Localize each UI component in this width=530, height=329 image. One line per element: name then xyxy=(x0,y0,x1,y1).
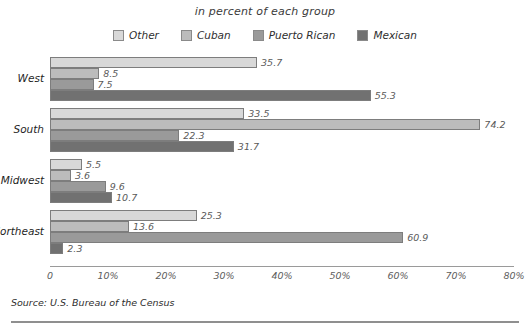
bar[interactable] xyxy=(50,181,106,192)
legend-swatch-icon xyxy=(253,30,264,41)
bar-row: 74.2 xyxy=(50,119,530,130)
bar-row: 60.9 xyxy=(50,232,530,243)
x-axis-line xyxy=(50,266,514,267)
bar-value-label: 9.6 xyxy=(110,181,125,192)
bar[interactable] xyxy=(50,79,94,90)
category-label: South xyxy=(0,123,44,135)
bar[interactable] xyxy=(50,210,197,221)
bar[interactable] xyxy=(50,68,99,79)
bar-row: 2.3 xyxy=(50,243,530,254)
bar-value-label: 25.3 xyxy=(201,210,222,221)
bar-value-label: 10.7 xyxy=(116,192,137,203)
bar-value-label: 33.5 xyxy=(248,108,269,119)
bar[interactable] xyxy=(50,130,179,141)
plot-area: West35.78.57.555.3South33.574.222.331.7M… xyxy=(0,54,530,266)
category-label: West xyxy=(0,72,44,84)
x-tick-label: 80% xyxy=(503,270,524,281)
legend-label: Puerto Rican xyxy=(269,29,336,41)
legend-swatch-icon xyxy=(357,30,368,41)
bar-value-label: 7.5 xyxy=(98,79,113,90)
chart-title: in percent of each group xyxy=(0,5,530,18)
x-tick-label: 60% xyxy=(387,270,408,281)
bar-row: 5.5 xyxy=(50,159,530,170)
bar-row: 33.5 xyxy=(50,108,530,119)
bar-row: 31.7 xyxy=(50,141,530,152)
bar-value-label: 2.3 xyxy=(67,243,82,254)
chart-legend: OtherCubanPuerto RicanMexican xyxy=(0,29,530,41)
bar[interactable] xyxy=(50,243,63,254)
bar-value-label: 13.6 xyxy=(133,221,154,232)
legend-item: Mexican xyxy=(357,29,417,41)
bar-value-label: 22.3 xyxy=(183,130,204,141)
bar-group: Northeast25.313.660.92.3 xyxy=(0,210,530,254)
bar-value-label: 3.6 xyxy=(75,170,90,181)
bar-value-label: 60.9 xyxy=(407,232,428,243)
bar[interactable] xyxy=(50,90,371,101)
x-tick-label: 40% xyxy=(271,270,292,281)
bar-row: 10.7 xyxy=(50,192,530,203)
bar-group: Midwest5.53.69.610.7 xyxy=(0,159,530,203)
bar-value-label: 5.5 xyxy=(86,159,101,170)
x-tick-label: 50% xyxy=(329,270,350,281)
bar-value-label: 74.2 xyxy=(484,119,505,130)
bar-value-label: 55.3 xyxy=(375,90,396,101)
bar-value-label: 8.5 xyxy=(103,68,118,79)
bar-row: 9.6 xyxy=(50,181,530,192)
bar-row: 55.3 xyxy=(50,90,530,101)
x-axis-tick-labels: 010%20%30%40%50%60%70%80% xyxy=(0,270,530,284)
category-label: Northeast xyxy=(0,225,44,237)
bar-group: West35.78.57.555.3 xyxy=(0,57,530,101)
bar[interactable] xyxy=(50,108,244,119)
bar[interactable] xyxy=(50,57,257,68)
bar-row: 25.3 xyxy=(50,210,530,221)
bar-chart: in percent of each group OtherCubanPuert… xyxy=(0,0,530,329)
legend-label: Mexican xyxy=(373,29,417,41)
bar-row: 13.6 xyxy=(50,221,530,232)
legend-swatch-icon xyxy=(181,30,192,41)
legend-item: Other xyxy=(113,29,159,41)
x-tick-label: 30% xyxy=(213,270,234,281)
bar-group: South33.574.222.331.7 xyxy=(0,108,530,152)
bar[interactable] xyxy=(50,119,480,130)
bar-row: 35.7 xyxy=(50,57,530,68)
x-tick-label: 10% xyxy=(97,270,118,281)
x-tick-label: 70% xyxy=(445,270,466,281)
bar-row: 22.3 xyxy=(50,130,530,141)
bar[interactable] xyxy=(50,192,112,203)
source-note: Source: U.S. Bureau of the Census xyxy=(11,297,174,308)
legend-item: Cuban xyxy=(181,29,231,41)
bar[interactable] xyxy=(50,232,403,243)
bar-value-label: 35.7 xyxy=(261,57,282,68)
bar-row: 7.5 xyxy=(50,79,530,90)
bottom-divider xyxy=(11,321,519,323)
legend-swatch-icon xyxy=(113,30,124,41)
legend-item: Puerto Rican xyxy=(253,29,336,41)
x-tick-label: 20% xyxy=(155,270,176,281)
x-tick-label: 0 xyxy=(47,270,53,281)
bar-row: 8.5 xyxy=(50,68,530,79)
category-label: Midwest xyxy=(0,174,44,186)
legend-label: Cuban xyxy=(197,29,231,41)
bar[interactable] xyxy=(50,170,71,181)
bar[interactable] xyxy=(50,141,234,152)
legend-label: Other xyxy=(129,29,159,41)
bar[interactable] xyxy=(50,221,129,232)
bar-value-label: 31.7 xyxy=(238,141,259,152)
bar[interactable] xyxy=(50,159,82,170)
bar-row: 3.6 xyxy=(50,170,530,181)
